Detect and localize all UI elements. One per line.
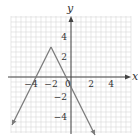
x-tick-label: −2 [44,79,57,89]
y-tick-label: −4 [54,112,68,122]
axes [8,16,131,134]
function-graph: −4−202442−2−4 x y [0,0,138,137]
y-tick-label: 2 [61,52,67,62]
x-tick-label: 0 [65,79,71,89]
x-tick-label: −4 [24,79,38,89]
x-axis-label: x [132,70,138,83]
x-tick-label: 2 [88,79,94,89]
y-axis-label: y [66,2,74,15]
y-tick-label: 4 [61,32,67,42]
x-tick-label: 4 [108,79,114,89]
y-tick-label: −2 [54,92,67,102]
